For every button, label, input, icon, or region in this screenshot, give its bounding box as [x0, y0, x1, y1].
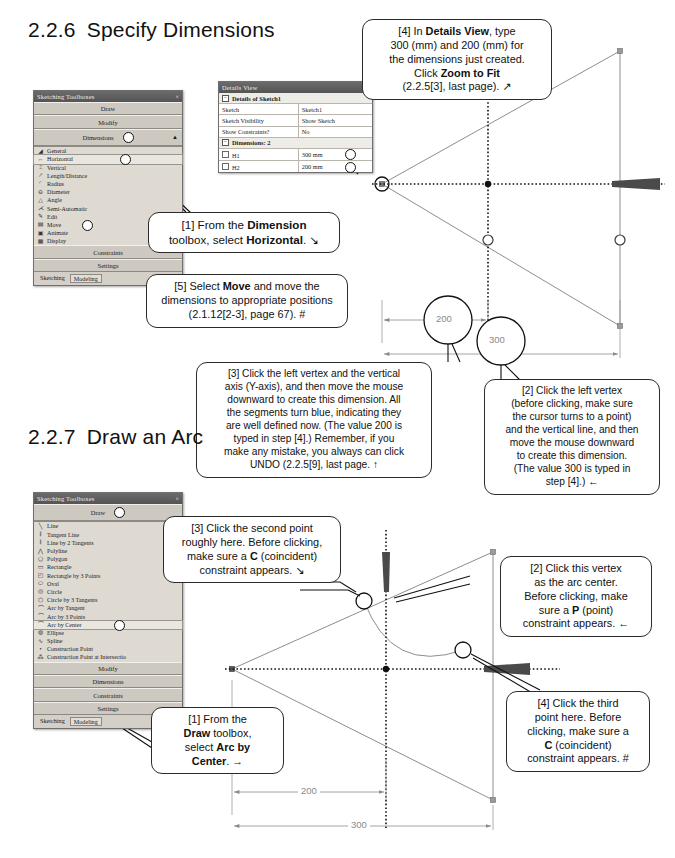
- collapse-icon[interactable]: −: [222, 95, 229, 102]
- dimension-label-300-top: 300: [489, 334, 505, 345]
- construction-point-at-intersection-icon: ⁂: [37, 654, 44, 661]
- checkbox[interactable]: [222, 163, 229, 170]
- tool-horizontal[interactable]: ↔ Horizontal: [34, 155, 182, 163]
- tab-sketching[interactable]: Sketching: [37, 717, 68, 726]
- checkbox[interactable]: [222, 151, 229, 158]
- tool-label: Arc by 3 Points: [47, 614, 85, 620]
- tool-oval[interactable]: ⬭ Oval: [34, 580, 182, 588]
- rectangle-icon: ▭: [37, 564, 44, 571]
- ellipse-icon: ◍: [37, 629, 44, 636]
- table-row[interactable]: Sketch Sketch1: [219, 104, 372, 115]
- tab-sketching[interactable]: Sketching: [37, 274, 68, 283]
- callout-227-step2: [2] Click this vertexas the arc center.B…: [500, 556, 652, 637]
- tool-general[interactable]: ◢ General: [34, 147, 182, 155]
- tab-modeling[interactable]: Modeling: [70, 717, 102, 726]
- tool-label: Line: [47, 523, 58, 529]
- tool-spline[interactable]: ∿ Spline: [34, 637, 182, 645]
- tool-radius[interactable]: ◜ Radius: [34, 180, 182, 188]
- section-heading-227: 2.2.7Draw an Arc: [28, 425, 203, 449]
- toolbox-section-modify[interactable]: Modify: [34, 662, 182, 675]
- tool-label: Polyline: [47, 548, 67, 554]
- diameter-icon: ⊖: [37, 189, 44, 196]
- tool-ellipse[interactable]: ◍ Ellipse: [34, 629, 182, 637]
- sketching-toolboxes-panel-2[interactable]: Sketching Toolboxes × Draw ╲ Line 𝄃 Tang…: [33, 492, 183, 729]
- circle-by-3-tangents-icon: ⬡: [37, 597, 44, 604]
- rectangle-by-3-points-icon: ◰: [37, 572, 44, 579]
- tool-angle[interactable]: △ Angle: [34, 196, 182, 204]
- section-number: 2.2.6: [28, 18, 76, 41]
- tab-modeling[interactable]: Modeling: [70, 274, 102, 283]
- tool-line[interactable]: ╲ Line: [34, 522, 182, 530]
- close-icon[interactable]: ×: [175, 94, 179, 100]
- tool-vertical[interactable]: ⌶ Vertical: [34, 164, 182, 172]
- tool-label: Angle: [47, 197, 62, 203]
- semi-automatic-icon: ⋌: [37, 205, 44, 212]
- tool-label: Construction Point: [47, 646, 93, 652]
- toolbox-section-draw[interactable]: Draw: [34, 504, 182, 521]
- toolbox-section-dimensions[interactable]: Dimensions ▲: [34, 129, 182, 146]
- tool-label: Display: [47, 238, 66, 244]
- construction-point-icon: •: [37, 646, 44, 653]
- tool-label: Line by 2 Tangents: [47, 540, 94, 546]
- toolbox-section-label: Dimensions: [82, 134, 113, 141]
- callout-227-step1: [1] From theDraw toolbox,select Arc byCe…: [151, 707, 284, 774]
- table-row-h1[interactable]: H1 300 mm: [219, 149, 372, 161]
- details-view-panel[interactable]: Details View ⇱ − Details of Sketch1 Sket…: [218, 81, 373, 173]
- tool-length-distance[interactable]: ↗ Length/Distance: [34, 172, 182, 180]
- tool-diameter[interactable]: ⊖ Diameter: [34, 188, 182, 196]
- details-view-title-text: Details View: [222, 84, 257, 91]
- section-title: Specify Dimensions: [87, 18, 275, 41]
- tool-polygon[interactable]: ⬠ Polygon: [34, 555, 182, 563]
- table-row[interactable]: Show Constraints? No: [219, 127, 372, 138]
- toolbox-section-dimensions[interactable]: Dimensions: [34, 675, 182, 688]
- tool-label: Arc by Center: [47, 622, 82, 628]
- table-row[interactable]: Sketch Visibility Show Sketch: [219, 115, 372, 126]
- toolbox-section-modify[interactable]: Modify: [34, 115, 182, 128]
- toolbox-section-settings[interactable]: Settings: [34, 259, 182, 272]
- section-title: Draw an Arc: [87, 425, 204, 448]
- sketching-toolboxes-panel-1[interactable]: Sketching Toolboxes × Draw Modify Dimens…: [33, 90, 183, 286]
- row-value: No: [299, 127, 372, 137]
- tool-rectangle-by-3-points[interactable]: ◰ Rectangle by 3 Points: [34, 572, 182, 580]
- tool-construction-point[interactable]: • Construction Point: [34, 645, 182, 653]
- collapse-icon[interactable]: ▲: [172, 134, 178, 140]
- tool-arc-by-tangent[interactable]: ⌒ Arc by Tangent: [34, 604, 182, 612]
- details-group-sketch1[interactable]: − Details of Sketch1: [219, 93, 372, 104]
- row-value: 300 mm: [299, 149, 372, 160]
- tool-tangent-line[interactable]: 𝄃 Tangent Line: [34, 531, 182, 539]
- close-icon[interactable]: ×: [175, 496, 179, 502]
- callout-227-step4: [4] Click the thirdpoint here. Beforecli…: [506, 691, 650, 772]
- hotspot-marker-h2: [345, 162, 356, 173]
- tool-rectangle[interactable]: ▭ Rectangle: [34, 563, 182, 571]
- panel-title-text: Sketching Toolboxes: [37, 495, 94, 502]
- arc-by-center-icon: ⌒: [37, 621, 44, 628]
- dimension-label-200-top: 200: [436, 313, 452, 324]
- details-group-dimensions[interactable]: − Dimensions: 2: [219, 138, 372, 149]
- tool-label: Oval: [47, 581, 59, 587]
- details-group-label: Dimensions: 2: [232, 139, 271, 146]
- tool-arc-by-3-points[interactable]: ⌒ Arc by 3 Points: [34, 612, 182, 620]
- tool-circle[interactable]: ◎ Circle: [34, 588, 182, 596]
- panel-title-text: Sketching Toolboxes: [37, 93, 94, 100]
- collapse-icon[interactable]: −: [222, 139, 229, 146]
- tool-label: Semi-Automatic: [47, 206, 87, 212]
- row-key-label: H2: [232, 164, 240, 171]
- tool-circle-by-3-tangents[interactable]: ⬡ Circle by 3 Tangents: [34, 596, 182, 604]
- tool-label: Polygon: [47, 556, 67, 562]
- tool-polyline[interactable]: ⋀ Polyline: [34, 547, 182, 555]
- toolbox-section-constraints[interactable]: Constraints: [34, 688, 182, 701]
- tool-label: Spline: [47, 638, 63, 644]
- table-row-h2[interactable]: H2 200 mm: [219, 161, 372, 172]
- tool-arc-by-center[interactable]: ⌒ Arc by Center: [34, 621, 182, 629]
- tool-label: Ellipse: [47, 630, 64, 636]
- general-dimension-icon: ◢: [37, 148, 44, 155]
- edit-icon: ✎: [37, 213, 44, 220]
- draw-tool-list: ╲ Line 𝄃 Tangent Line 𝄃 Line by 2 Tangen…: [34, 521, 182, 661]
- line-by-2-tangents-icon: 𝄃: [37, 539, 44, 546]
- tool-line-by-2-tangents[interactable]: 𝄃 Line by 2 Tangents: [34, 539, 182, 547]
- row-key: Sketch Visibility: [219, 115, 299, 125]
- tool-construction-point-at-intersection[interactable]: ⁂ Construction Point at Intersectio: [34, 653, 182, 661]
- tool-label: Move: [47, 222, 61, 228]
- toolbox-section-draw[interactable]: Draw: [34, 102, 182, 115]
- radius-icon: ◜: [37, 180, 44, 187]
